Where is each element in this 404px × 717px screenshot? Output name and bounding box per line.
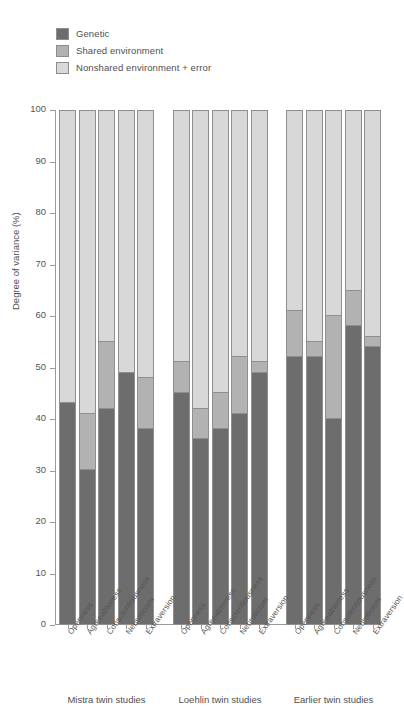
legend-swatch-icon	[56, 45, 69, 57]
y-axis-tick-label: 70	[35, 258, 46, 269]
bar-segment-shared-environment	[174, 362, 189, 393]
y-axis-title: Degree of variance (%)	[10, 212, 21, 310]
bar-segment-genetic	[287, 357, 302, 624]
bar-segment-genetic	[60, 403, 75, 624]
bars-container	[55, 110, 351, 625]
bar-segment-nonshared-environment	[287, 111, 302, 311]
legend-item: Shared environment	[56, 43, 211, 58]
y-axis-tick-label: 20	[35, 515, 46, 526]
bar-segment-shared-environment	[213, 393, 228, 429]
bar-segment-shared-environment	[232, 357, 247, 413]
legend-swatch-icon	[56, 28, 69, 40]
y-axis-tick-label: 90	[35, 155, 46, 166]
legend-item-label: Shared environment	[76, 45, 163, 56]
bar-segment-nonshared-environment	[213, 111, 228, 393]
chart-legend: GeneticShared environmentNonshared envir…	[56, 26, 211, 77]
legend-item: Genetic	[56, 26, 211, 41]
y-axis-tick-label: 40	[35, 412, 46, 423]
stacked-bar	[192, 110, 209, 625]
bar-segment-shared-environment	[365, 337, 380, 347]
stacked-bar	[118, 110, 135, 625]
bar-segment-shared-environment	[307, 342, 322, 357]
bar-segment-nonshared-environment	[174, 111, 189, 362]
legend-swatch-icon	[56, 62, 69, 74]
group-label: Loehlin twin studies	[179, 694, 262, 705]
plot-area: 0102030405060708090100	[55, 110, 351, 625]
group-label: Earlier twin studies	[294, 694, 374, 705]
bar-segment-nonshared-environment	[326, 111, 341, 316]
y-axis-tick-label: 10	[35, 567, 46, 578]
stacked-bar	[98, 110, 115, 625]
stacked-bar	[286, 110, 303, 625]
bar-segment-nonshared-environment	[346, 111, 361, 291]
bar-segment-nonshared-environment	[99, 111, 114, 342]
bar-segment-genetic	[119, 373, 134, 624]
bar-segment-genetic	[174, 393, 189, 624]
bar-segment-shared-environment	[252, 362, 267, 372]
bar-segment-nonshared-environment	[307, 111, 322, 342]
y-axis-tick-label: 0	[41, 618, 46, 629]
bar-segment-nonshared-environment	[80, 111, 95, 414]
y-axis-tick-label: 80	[35, 206, 46, 217]
y-axis-tick-label: 100	[30, 103, 46, 114]
stacked-bar	[79, 110, 96, 625]
stacked-bar	[137, 110, 154, 625]
bar-segment-shared-environment	[287, 311, 302, 357]
legend-item-label: Genetic	[76, 28, 109, 39]
bar-segment-genetic	[307, 357, 322, 624]
bar-segment-nonshared-environment	[232, 111, 247, 357]
legend-item: Nonshared environment + error	[56, 60, 211, 75]
bar-segment-genetic	[346, 326, 361, 624]
stacked-bar	[59, 110, 76, 625]
y-axis-tick-label: 50	[35, 361, 46, 372]
stacked-bar	[325, 110, 342, 625]
group-label: Mistra twin studies	[67, 694, 145, 705]
bar-segment-nonshared-environment	[365, 111, 380, 337]
bar-segment-shared-environment	[80, 414, 95, 470]
stacked-bar	[364, 110, 381, 625]
stacked-bar	[251, 110, 268, 625]
bar-segment-shared-environment	[193, 409, 208, 440]
bar-segment-nonshared-environment	[138, 111, 153, 378]
bar-segment-nonshared-environment	[193, 111, 208, 409]
stacked-bar	[173, 110, 190, 625]
stacked-bar	[231, 110, 248, 625]
bar-segment-shared-environment	[99, 342, 114, 409]
y-axis-tick-label: 60	[35, 309, 46, 320]
bar-segment-shared-environment	[346, 291, 361, 327]
y-axis-tick-label: 30	[35, 464, 46, 475]
bar-segment-nonshared-environment	[119, 111, 134, 373]
stacked-bar	[212, 110, 229, 625]
bar-segment-genetic	[193, 439, 208, 624]
bar-segment-nonshared-environment	[252, 111, 267, 362]
stacked-bar	[345, 110, 362, 625]
bar-segment-shared-environment	[138, 378, 153, 429]
stacked-bar	[306, 110, 323, 625]
legend-item-label: Nonshared environment + error	[76, 62, 211, 73]
bar-segment-nonshared-environment	[60, 111, 75, 403]
bar-segment-shared-environment	[326, 316, 341, 419]
y-axis-tick: 0	[50, 625, 55, 626]
